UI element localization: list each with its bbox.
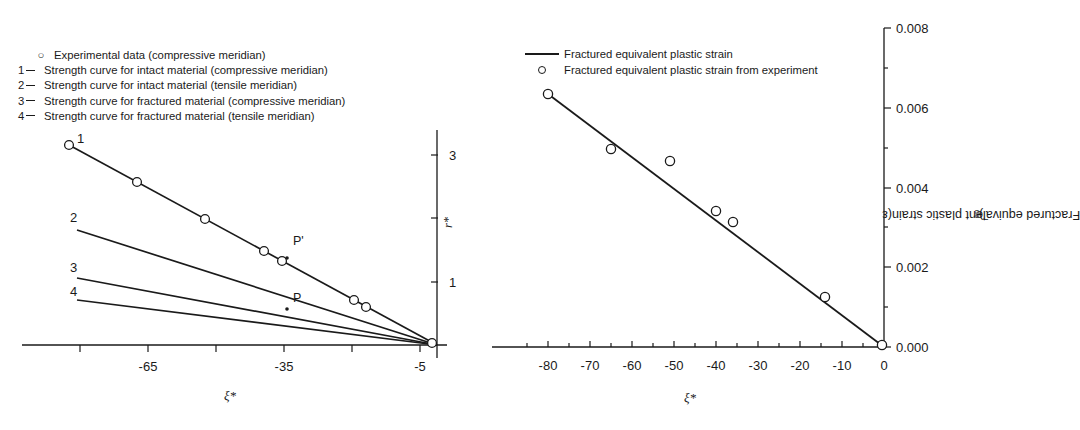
legend-label: Experimental data (compressive meridian) (54, 48, 266, 63)
legend-key: 4 (18, 109, 44, 124)
y-tick-marks (884, 28, 891, 347)
x-tick-label: -10 (833, 358, 852, 373)
curve-label-1: 1 (77, 131, 84, 146)
x-tick-label: -5 (414, 359, 426, 374)
x-tick-label: -35 (275, 359, 294, 374)
data-point (820, 292, 829, 301)
x-tick-label: -30 (749, 358, 768, 373)
legend-item: Fractured equivalent plastic strain from… (520, 62, 818, 78)
legend-item: 3 Strength curve for fractured material … (18, 94, 438, 109)
data-point (362, 303, 371, 312)
x-tick-label: -65 (139, 359, 158, 374)
data-point (728, 217, 737, 226)
legend-label: Strength curve for fractured material (t… (44, 109, 315, 124)
legend-key: 1 (18, 63, 44, 78)
dash-icon (26, 115, 35, 116)
x-tick-label: -20 (791, 358, 810, 373)
data-point (606, 144, 615, 153)
right-chart-legend: Fractured equivalent plastic strain Frac… (520, 46, 818, 78)
point-p-marker (285, 307, 289, 311)
data-point (65, 141, 74, 150)
x-tick-label: -50 (665, 358, 684, 373)
x-tick-label: -80 (539, 358, 558, 373)
data-point (278, 257, 287, 266)
x-axis-label: ξ* (684, 390, 697, 405)
circle-marker-icon (520, 66, 564, 74)
x-tick-marks (527, 341, 884, 347)
y-axis-label-suffix: ) (979, 208, 983, 222)
legend-label: Strength curve for fractured material (c… (44, 94, 345, 109)
line-sample-icon (520, 53, 564, 55)
y-tick-label: 1 (449, 275, 456, 290)
circle-marker-icon: ○ (18, 48, 54, 63)
x-tick-label: 0 (880, 358, 887, 373)
legend-item: ○ Experimental data (compressive meridia… (18, 48, 438, 63)
left-chart-panel: ○ Experimental data (compressive meridia… (0, 0, 500, 430)
x-tick-label: -60 (623, 358, 642, 373)
y-tick-label: 0.002 (896, 260, 929, 275)
dash-icon (26, 70, 35, 71)
x-tick-marks (80, 345, 420, 352)
curve-label-4: 4 (70, 284, 77, 299)
y-axis-label: r* (441, 216, 455, 228)
fitted-line (548, 94, 884, 347)
right-y-axis-label: Fractured equivalent plastic strain(εfep… (970, 0, 992, 430)
dash-icon (26, 85, 35, 86)
data-point (877, 340, 886, 349)
dash-icon (26, 100, 35, 101)
y-tick-label: 0.006 (896, 101, 929, 116)
x-axis-label: ξ* (224, 388, 237, 403)
data-point (543, 89, 552, 98)
data-point (133, 178, 142, 187)
x-tick-label: -40 (707, 358, 726, 373)
point-p-prime-marker (285, 256, 289, 260)
y-tick-label: 0.004 (896, 181, 929, 196)
legend-label: Fractured equivalent plastic strain (564, 46, 733, 62)
curve-label-2: 2 (70, 210, 77, 225)
point-label-p-prime: P' (293, 234, 304, 248)
data-point (350, 296, 359, 305)
curve-label-3: 3 (70, 260, 77, 275)
data-point (201, 215, 210, 224)
data-point (711, 206, 720, 215)
left-chart-legend: ○ Experimental data (compressive meridia… (18, 48, 438, 124)
data-point (428, 339, 437, 348)
point-label-p: P (293, 291, 301, 305)
x-tick-label: -70 (581, 358, 600, 373)
legend-item: 4 Strength curve for fractured material … (18, 109, 438, 124)
legend-item: 1 Strength curve for intact material (co… (18, 63, 438, 78)
legend-item: Fractured equivalent plastic strain (520, 46, 818, 62)
legend-key: 3 (18, 94, 44, 109)
legend-label: Fractured equivalent plastic strain from… (564, 62, 818, 78)
legend-key: 2 (18, 78, 44, 93)
y-tick-label: 0.008 (896, 21, 929, 36)
data-point (260, 247, 269, 256)
legend-label: Strength curve for intact material (comp… (44, 63, 328, 78)
y-tick-label: 3 (449, 148, 456, 163)
data-point (665, 156, 674, 165)
right-chart-panel: Fractured equivalent plastic strain Frac… (480, 0, 994, 430)
y-tick-label: 0.000 (896, 340, 929, 355)
strength-curve-4 (77, 300, 437, 345)
legend-item: 2 Strength curve for intact material (te… (18, 78, 438, 93)
legend-label: Strength curve for intact material (tens… (44, 78, 297, 93)
